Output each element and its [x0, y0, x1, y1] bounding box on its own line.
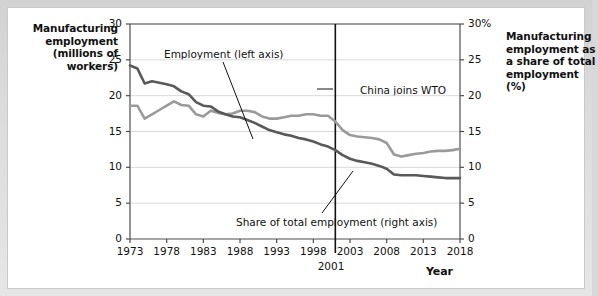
y-tick-label: 5 — [90, 196, 122, 208]
x-tick-label: 2018 — [440, 245, 480, 257]
x-tick-label: 1988 — [220, 245, 260, 257]
y-tick-label: 30 — [90, 17, 122, 29]
x-tick-label: 1983 — [183, 245, 223, 257]
y2-tick-label: 5 — [468, 196, 475, 208]
y2-tick-label: 10 — [468, 160, 481, 172]
x-tick-label: 1973 — [110, 245, 150, 257]
x-tick-label: 1998 — [293, 245, 333, 257]
y-tick-label: 10 — [90, 160, 122, 172]
chart-card: Manufacturing employment (millions of wo… — [8, 8, 584, 288]
y2-tick-label: 20 — [468, 89, 481, 101]
x-tick-label: 1993 — [257, 245, 297, 257]
y-tick-label: 20 — [90, 89, 122, 101]
y2-tick-label: 15 — [468, 125, 481, 137]
annotation-leader-lines — [223, 62, 353, 213]
y2-tick-label: 0 — [468, 232, 475, 244]
y2-tick-label: 25 — [468, 53, 481, 65]
x-tick-label: 2003 — [330, 245, 370, 257]
y-tick-label: 15 — [90, 125, 122, 137]
x-tick-label: 2008 — [367, 245, 407, 257]
y2-tick-label: 30% — [468, 17, 491, 29]
x-tick-label: 2013 — [403, 245, 443, 257]
y-tick-label: 0 — [90, 232, 122, 244]
data-series — [130, 66, 460, 179]
x-tick-label: 1978 — [147, 245, 187, 257]
x-tick-marks — [130, 239, 460, 243]
y-tick-label: 25 — [90, 53, 122, 65]
